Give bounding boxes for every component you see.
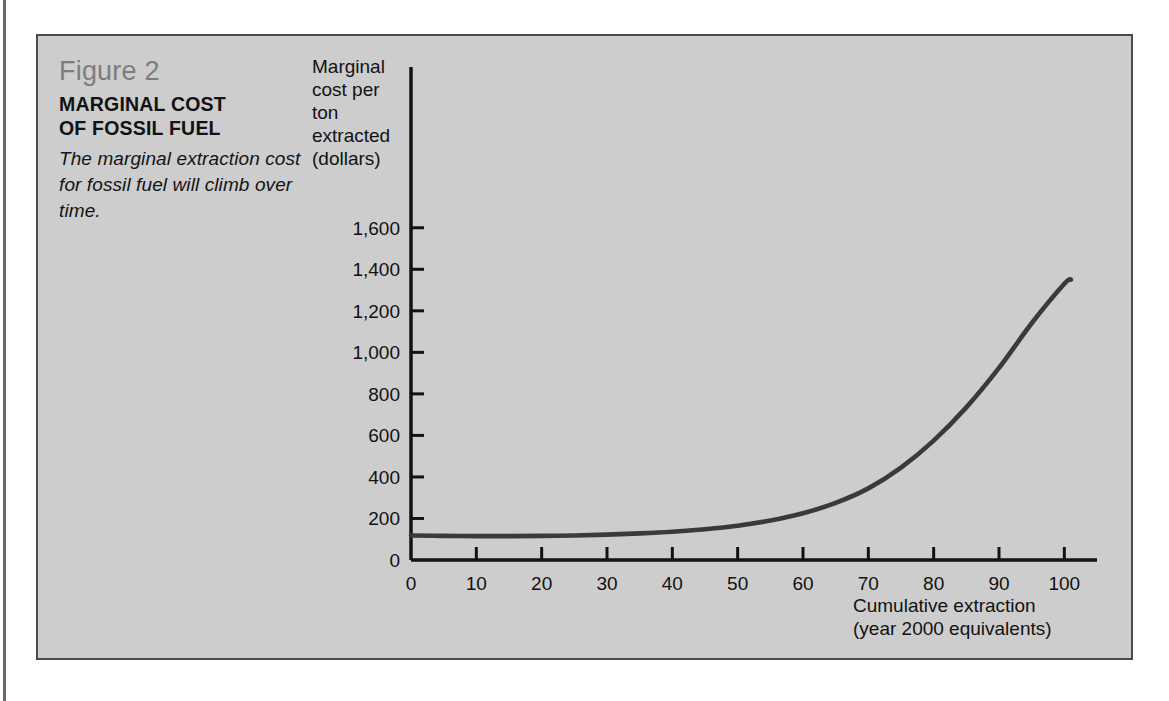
x-axis-label-line-2: (year 2000 equivalents)	[853, 618, 1133, 641]
x-axis-tick-label: 50	[727, 573, 748, 594]
x-axis-tick-label: 90	[988, 573, 1009, 594]
x-axis-tick-label: 10	[466, 573, 487, 594]
x-axis-tick-label: 100	[1048, 573, 1080, 594]
x-axis-tick-marks	[476, 547, 1064, 560]
x-axis-tick-label: 20	[531, 573, 552, 594]
y-axis-tick-label: 1,600	[352, 218, 400, 239]
x-axis-tick-labels: 0102030405060708090100	[406, 573, 1080, 594]
y-axis-tick-label: 800	[368, 384, 400, 405]
y-axis-tick-label: 1,400	[352, 259, 400, 280]
data-series-curve	[411, 279, 1071, 536]
y-axis-tick-label: 1,000	[352, 342, 400, 363]
x-axis-label-line-1: Cumulative extraction	[853, 595, 1133, 618]
page-edge-rule	[3, 0, 6, 701]
y-axis-tick-label: 1,200	[352, 301, 400, 322]
x-axis-tick-label: 60	[792, 573, 813, 594]
y-axis-tick-label: 400	[368, 467, 400, 488]
y-axis-tick-labels: 02004006008001,0001,2001,4001,600	[352, 218, 400, 571]
x-axis-tick-label: 80	[923, 573, 944, 594]
x-axis-tick-label: 70	[858, 573, 879, 594]
y-axis-tick-label: 600	[368, 425, 400, 446]
y-axis-tick-label: 0	[389, 550, 400, 571]
x-axis-tick-label: 40	[662, 573, 683, 594]
y-axis-tick-marks	[411, 228, 424, 519]
figure-panel: Figure 2 MARGINAL COST OF FOSSIL FUEL Th…	[36, 34, 1133, 660]
x-axis-tick-label: 30	[596, 573, 617, 594]
x-axis-tick-label: 0	[406, 573, 417, 594]
y-axis-tick-label: 200	[368, 508, 400, 529]
x-axis-label: Cumulative extraction (year 2000 equival…	[853, 595, 1133, 641]
chart-area: Marginal cost per ton extracted (dollars…	[38, 36, 1135, 662]
line-chart: 02004006008001,0001,2001,4001,600 010203…	[38, 36, 1135, 662]
